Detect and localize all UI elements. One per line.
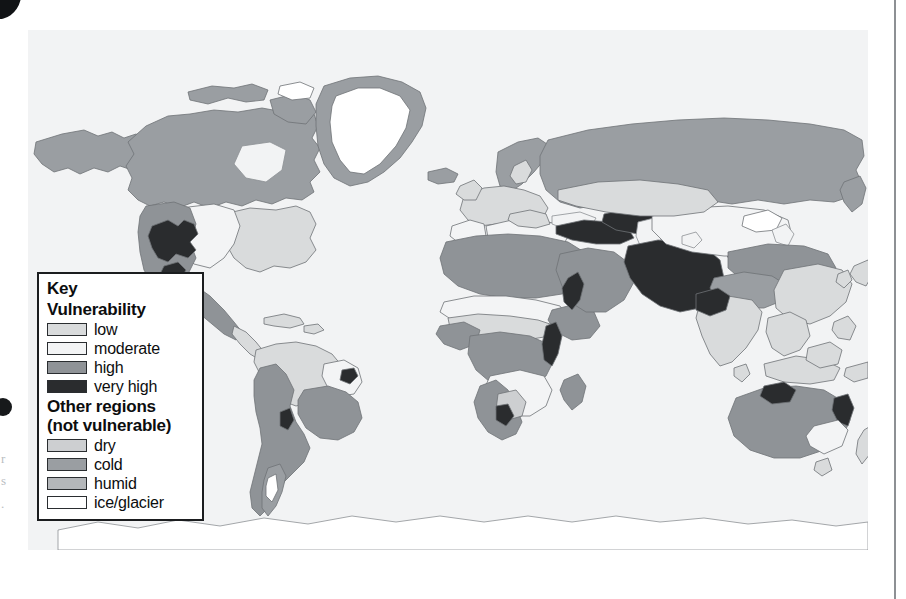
legend-vulnerability-heading: Vulnerability (47, 300, 195, 319)
legend-title: Key (47, 279, 195, 298)
legend-item-low[interactable]: low (47, 320, 195, 338)
legend-swatch-cold (47, 458, 87, 471)
region-sea-indochina-low (766, 312, 810, 356)
legend-label-moderate: moderate (94, 340, 160, 357)
region-sri-lanka-low (734, 364, 750, 382)
legend-item-cold[interactable]: cold (47, 455, 195, 473)
margin-bullet-icon (0, 398, 12, 416)
region-new-zealand-low (856, 424, 868, 464)
margin-text-fragment: r (1, 452, 15, 466)
legend-item-humid[interactable]: humid (47, 474, 195, 492)
legend-item-dry[interactable]: dry (47, 436, 195, 454)
region-japan-low (850, 260, 868, 286)
region-antarctica-ice (58, 516, 868, 550)
region-hispaniola-low (304, 324, 324, 334)
region-philippines-low (832, 316, 856, 340)
region-tasmania-low (814, 458, 832, 476)
legend-item-very-high[interactable]: very high (47, 377, 195, 395)
legend-label-dry: dry (94, 437, 116, 454)
margin-text-fragment: . (1, 497, 15, 511)
legend-swatch-humid (47, 477, 87, 490)
margin-text-fragment: s (1, 474, 15, 488)
world-vulnerability-map-figure: Key Vulnerability low moderate high (28, 30, 868, 550)
legend-item-high[interactable]: high (47, 358, 195, 376)
legend-other-heading-line2: (not vulnerable) (47, 416, 195, 435)
region-iceland-cold (428, 168, 458, 184)
region-arctic-archipelago-cold (188, 84, 268, 104)
legend-swatch-high (47, 361, 87, 374)
legend-swatch-moderate (47, 342, 87, 355)
legend-swatch-ice-glacier (47, 496, 87, 509)
column-rule-divider (894, 0, 896, 599)
region-caribbean-cuba-low (264, 314, 304, 328)
map-legend: Key Vulnerability low moderate high (37, 272, 204, 521)
legend-item-ice-glacier[interactable]: ice/glacier (47, 493, 195, 511)
legend-swatch-low (47, 323, 87, 336)
legend-other-heading-line1: Other regions (47, 397, 195, 416)
legend-label-ice-glacier: ice/glacier (94, 494, 164, 511)
region-new-guinea-low (844, 362, 868, 382)
region-greenland-ice-sheet (330, 88, 410, 174)
legend-label-cold: cold (94, 456, 123, 473)
page-ink-blob-artifact (0, 0, 24, 24)
legend-label-very-high: very high (94, 378, 157, 395)
legend-vulnerability-group: low moderate high very high (47, 320, 195, 395)
region-madagascar-high (560, 374, 586, 410)
legend-label-low: low (94, 321, 117, 338)
legend-label-high: high (94, 359, 123, 376)
legend-swatch-very-high (47, 380, 87, 393)
legend-other-group: dry cold humid ice/glacier (47, 436, 195, 511)
legend-label-humid: humid (94, 475, 137, 492)
legend-item-moderate[interactable]: moderate (47, 339, 195, 357)
legend-swatch-dry (47, 439, 87, 452)
